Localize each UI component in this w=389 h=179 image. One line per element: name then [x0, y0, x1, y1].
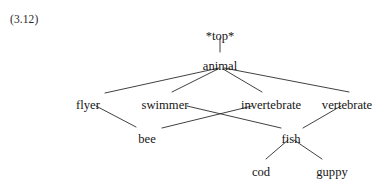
node-bee: bee	[138, 133, 155, 146]
edge-layer	[0, 0, 389, 179]
node-vertebrate: vertebrate	[322, 99, 372, 112]
node-fish: fish	[282, 133, 301, 146]
type-hierarchy-figure: (3.12) *top*animalflyerswimmerinvertebra…	[0, 0, 389, 179]
node-cod: cod	[252, 166, 270, 179]
node-flyer: flyer	[76, 99, 100, 112]
node-guppy: guppy	[316, 166, 347, 179]
node-invertebrate: invertebrate	[241, 99, 301, 112]
edge-animal-vertebrate	[224, 68, 349, 92]
node-animal: animal	[203, 60, 237, 73]
edge-flyer-bee	[96, 106, 136, 127]
node-top: *top*	[206, 30, 235, 43]
node-swimmer: swimmer	[142, 99, 189, 112]
